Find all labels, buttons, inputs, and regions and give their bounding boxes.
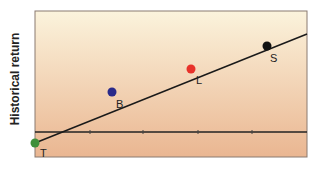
point-L	[187, 65, 196, 74]
point-T	[31, 139, 40, 148]
point-S	[263, 42, 272, 51]
label-T: T	[40, 147, 47, 159]
label-L: L	[196, 74, 202, 86]
point-B	[108, 88, 117, 97]
label-S: S	[270, 52, 277, 64]
label-B: B	[116, 98, 123, 110]
plot-area	[35, 11, 307, 157]
chart-plot: T B L S	[0, 0, 320, 170]
